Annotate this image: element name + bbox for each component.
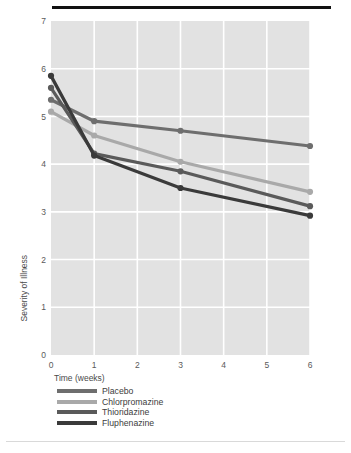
x-tick-label: 5: [264, 360, 269, 370]
data-point: [91, 132, 97, 138]
y-tick-label: 7: [41, 16, 46, 26]
x-tick-label: 6: [308, 360, 313, 370]
y-tick-label: 0: [41, 350, 46, 360]
data-point: [307, 213, 313, 219]
y-tick-label: 4: [41, 159, 46, 169]
data-point: [307, 143, 313, 149]
x-tick-label: 0: [49, 360, 54, 370]
legend-label: Fluphenazine: [102, 418, 154, 429]
data-point: [177, 159, 183, 165]
data-point: [307, 203, 313, 209]
y-tick-label: 6: [41, 64, 46, 74]
y-tick-label: 1: [41, 302, 46, 312]
legend-swatch-icon: [57, 410, 97, 414]
x-tick-label: 4: [221, 360, 226, 370]
chart-legend: PlaceboChlorpromazineThioridazineFluphen…: [57, 386, 163, 428]
legend-label: Placebo: [102, 386, 133, 397]
data-point: [48, 109, 54, 115]
plot-area-wrapper: 01234567 0123456 Time (weeks)Severity of…: [0, 0, 351, 453]
y-tick-label: 3: [41, 207, 46, 217]
y-tick-label: 5: [41, 112, 46, 122]
line-chart: 01234567 0123456 Time (weeks)Severity of…: [0, 0, 351, 453]
x-tick-label: 1: [92, 360, 97, 370]
legend-item: Fluphenazine: [57, 418, 163, 429]
legend-item: Placebo: [57, 386, 163, 397]
data-point: [48, 73, 54, 79]
data-point: [48, 97, 54, 103]
x-axis-title: Time (weeks): [54, 373, 105, 383]
legend-label: Chlorpromazine: [102, 397, 163, 408]
legend-item: Chlorpromazine: [57, 397, 163, 408]
legend-label: Thioridazine: [102, 407, 149, 418]
data-point: [48, 85, 54, 91]
data-point: [177, 168, 183, 174]
data-point: [91, 118, 97, 124]
figure-container: 01234567 0123456 Time (weeks)Severity of…: [0, 0, 351, 453]
x-tick-label: 2: [135, 360, 140, 370]
data-point: [177, 128, 183, 134]
data-point: [307, 189, 313, 195]
data-point: [177, 185, 183, 191]
y-axis-title: Severity of Illness: [19, 255, 29, 322]
y-axis-ticks: 01234567: [41, 16, 46, 360]
legend-item: Thioridazine: [57, 407, 163, 418]
legend-swatch-icon: [57, 421, 97, 425]
y-tick-label: 2: [41, 255, 46, 265]
data-point: [91, 152, 97, 158]
x-tick-label: 3: [178, 360, 183, 370]
legend-swatch-icon: [57, 389, 97, 393]
x-axis-ticks: 0123456: [49, 360, 313, 370]
legend-swatch-icon: [57, 400, 97, 404]
bottom-divider-rule: [6, 441, 345, 442]
